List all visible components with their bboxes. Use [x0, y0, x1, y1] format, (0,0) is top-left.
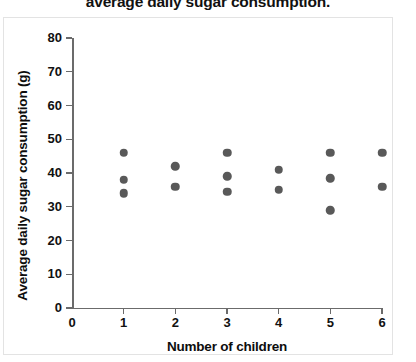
y-tick-label: 70 [18, 65, 62, 78]
y-tick-mark [66, 307, 72, 308]
scatter-point [119, 149, 128, 158]
scatter-point [326, 149, 335, 158]
y-tick-mark [66, 105, 72, 106]
x-tick-mark [381, 308, 382, 314]
x-tick-label: 2 [155, 316, 195, 329]
x-tick-label: 4 [259, 316, 299, 329]
y-tick-mark [66, 274, 72, 275]
scatter-point [223, 149, 232, 158]
y-tick-mark [66, 71, 72, 72]
y-tick-mark [66, 240, 72, 241]
scatter-point [326, 206, 335, 215]
y-tick-mark [66, 206, 72, 207]
y-tick-label: 30 [18, 200, 62, 213]
x-tick-mark [330, 308, 331, 314]
y-tick-label: 40 [18, 166, 62, 179]
scatter-point [326, 174, 335, 183]
x-tick-mark [226, 308, 227, 314]
scatter-point [119, 189, 128, 198]
y-tick-label: 10 [18, 267, 62, 280]
scatter-point [274, 186, 283, 195]
x-tick-label: 5 [310, 316, 350, 329]
x-tick-label: 6 [362, 316, 402, 329]
y-tick-label: 80 [18, 31, 62, 44]
x-axis-title: Number of children [72, 339, 382, 354]
x-tick-mark [123, 308, 124, 314]
x-tick-label: 0 [52, 316, 92, 329]
y-tick-mark [66, 139, 72, 140]
y-tick-mark [66, 172, 72, 173]
x-tick-mark [175, 308, 176, 314]
y-tick-label: 60 [18, 99, 62, 112]
y-tick-label: 20 [18, 234, 62, 247]
scatter-point [171, 182, 180, 191]
y-tick-mark [66, 37, 72, 38]
y-tick-label: 0 [18, 301, 62, 314]
scatter-point [274, 165, 283, 174]
scatter-point [119, 176, 128, 185]
y-axis-line [72, 38, 74, 309]
scatter-point [223, 172, 232, 181]
scatter-point [378, 182, 387, 191]
chart-container: average daily sugar consumption. Average… [0, 0, 416, 362]
scatter-point [171, 162, 180, 171]
scatter-point [223, 187, 232, 196]
scatter-point [378, 149, 387, 158]
y-tick-label: 50 [18, 132, 62, 145]
x-tick-label: 1 [104, 316, 144, 329]
chart-title: average daily sugar consumption. [0, 0, 416, 12]
x-tick-mark [278, 308, 279, 314]
x-tick-label: 3 [207, 316, 247, 329]
